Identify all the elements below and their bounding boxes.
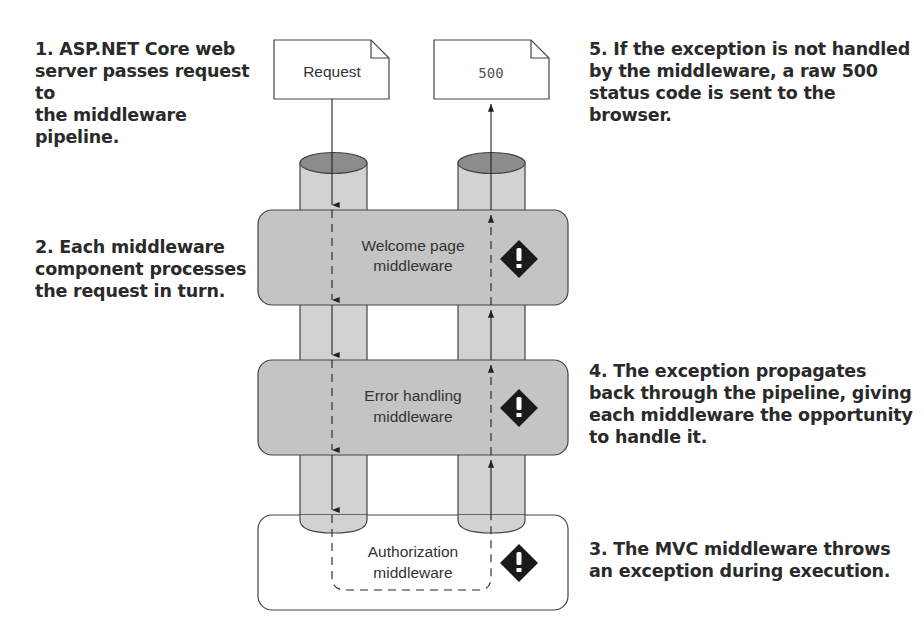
response-500-document: 500	[434, 40, 549, 99]
middleware-label: Error handling	[364, 387, 461, 404]
middleware-label: middleware	[373, 257, 452, 274]
middleware-label: Welcome page	[361, 237, 464, 254]
middleware-label: middleware	[373, 564, 452, 581]
middleware-label: Authorization	[368, 543, 458, 560]
middleware-welcome-page: Welcome page middleware	[258, 210, 568, 305]
pipeline-diagram: Welcome page middleware Error handling m…	[0, 0, 924, 635]
status-code-label: 500	[478, 65, 503, 81]
middleware-label: middleware	[373, 408, 452, 425]
middleware-error-handling: Error handling middleware	[258, 360, 568, 455]
middleware-authorization: Authorization middleware	[258, 515, 568, 610]
request-label: Request	[303, 63, 361, 80]
request-document: Request	[274, 40, 389, 99]
